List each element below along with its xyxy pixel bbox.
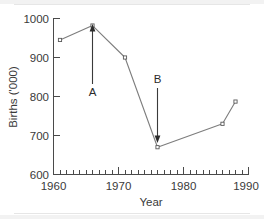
x-tick-label-1970: 1970	[106, 180, 132, 192]
y-tick-label-1000: 1000	[23, 13, 49, 25]
line-chart-plot: 1000 900 800 700 600 1960 1970 1980 1990…	[0, 0, 264, 219]
y-tick-labels: 1000 900 800 700 600	[23, 13, 49, 181]
x-tick-label-1980: 1980	[171, 180, 197, 192]
annotation-b-label: B	[154, 73, 162, 85]
y-tick-label-800: 800	[30, 91, 49, 103]
data-point-marker	[156, 146, 159, 149]
x-axis-minor-ticks	[60, 170, 242, 175]
y-tick-label-700: 700	[30, 130, 49, 142]
data-line-births	[60, 26, 236, 148]
data-point-marker	[234, 100, 237, 103]
x-tick-labels: 1960 1970 1980 1990	[41, 180, 259, 192]
y-axis-title: Births ('000)	[7, 66, 19, 128]
chart-figure: 1000 900 800 700 600 1960 1970 1980 1990…	[0, 0, 264, 219]
annotation-a: A	[89, 24, 97, 98]
annotation-b: B	[154, 73, 162, 143]
data-point-marker	[221, 122, 224, 125]
x-tick-label-1960: 1960	[41, 180, 67, 192]
annotation-a-label: A	[89, 86, 97, 98]
data-point-marker	[58, 38, 61, 41]
data-point-marker	[123, 56, 126, 59]
y-tick-label-900: 900	[30, 52, 49, 64]
x-tick-label-1990: 1990	[233, 180, 259, 192]
axis-lines	[54, 18, 249, 175]
x-axis-title: Year	[139, 196, 162, 208]
data-markers-births	[58, 24, 237, 149]
